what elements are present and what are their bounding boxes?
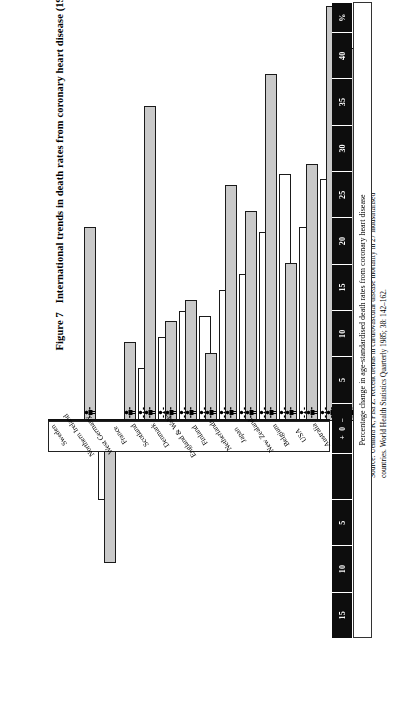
axis-tick-15: 15 bbox=[332, 264, 352, 310]
axis-tick-5: 5 bbox=[332, 356, 352, 402]
axis-tick-10: 10 bbox=[332, 310, 352, 356]
axis-tick-15: 15 bbox=[332, 592, 352, 638]
axis-tick-40: 40 bbox=[332, 32, 352, 78]
axis-scale-strip: 15105 + 0 −510152025303540% bbox=[332, 2, 352, 638]
axis-tick-zero: % bbox=[332, 2, 352, 32]
bar-male bbox=[265, 75, 277, 422]
plot-area bbox=[82, 0, 328, 640]
bar-male bbox=[144, 106, 156, 421]
country-label-band: SwedenNorthern IrelandWest GermanyFrance… bbox=[48, 421, 330, 452]
bar-male bbox=[306, 164, 318, 421]
axis-tick-35: 35 bbox=[332, 78, 352, 124]
axis-caption: Percentage change in age-standardised de… bbox=[353, 2, 372, 638]
axis-tick-10: 10 bbox=[332, 545, 352, 591]
axis-tick-blank bbox=[332, 453, 352, 499]
chart-container: SwedenNorthern IrelandWest GermanyFrance… bbox=[48, 0, 378, 640]
axis-caption-text: Percentage change in age-standardised de… bbox=[358, 194, 367, 445]
axis-tick-25: 25 bbox=[332, 171, 352, 217]
axis-tick-5: 5 bbox=[332, 499, 352, 545]
axis-tick-0: + 0 − bbox=[332, 403, 352, 453]
bar-male bbox=[245, 211, 257, 421]
axis-tick-30: 30 bbox=[332, 125, 352, 171]
chart-inner: SwedenNorthern IrelandWest GermanyFrance… bbox=[48, 0, 378, 640]
bar-male bbox=[225, 185, 237, 421]
axis-tick-20: 20 bbox=[332, 217, 352, 263]
